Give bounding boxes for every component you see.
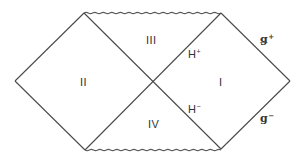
future-null-infinity-line: [221, 13, 290, 81]
region-label-IV: IV: [148, 119, 159, 130]
left-upper-edge: [15, 13, 84, 81]
future-null-infinity-sup: +: [268, 32, 274, 41]
past-null-infinity-sup: −: [268, 111, 274, 120]
left-lower-edge: [15, 81, 85, 150]
future-horizon-label: H+: [188, 49, 201, 60]
region-label-I: I: [219, 77, 223, 88]
past-singularity: [85, 149, 221, 150]
past-horizon-sup: −: [196, 103, 201, 110]
past-null-infinity-label: g−: [260, 113, 275, 124]
past-null-infinity-line: [221, 81, 290, 149]
penrose-diagram: III II I IV H+ H− ǥ+ g−: [0, 0, 305, 162]
future-null-infinity-label: ǥ+: [260, 34, 275, 45]
region-label-III: III: [146, 35, 157, 46]
future-null-infinity-base: ǥ: [260, 33, 268, 46]
diagram-lines: [0, 0, 305, 162]
past-null-infinity-base: g: [260, 112, 268, 125]
future-horizon-sup: +: [196, 48, 201, 55]
region-label-II: II: [80, 77, 87, 88]
future-singularity: [84, 12, 221, 13]
past-horizon-label: H−: [188, 104, 201, 115]
